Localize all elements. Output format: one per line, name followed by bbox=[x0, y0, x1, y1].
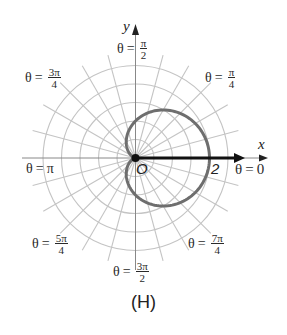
fraction: π 2 bbox=[140, 38, 148, 60]
x-axis-label: x bbox=[258, 136, 265, 153]
numerator: π bbox=[228, 67, 236, 78]
grid-radial-line bbox=[108, 55, 136, 158]
equals-sign: = bbox=[198, 236, 206, 252]
y-axis-label: y bbox=[123, 18, 130, 35]
grid-radial-line bbox=[136, 158, 239, 186]
numerator: 3π bbox=[136, 261, 149, 272]
label-theta-3pi-over-2: θ = 3π 2 bbox=[113, 261, 149, 283]
theta-symbol: θ bbox=[235, 161, 242, 178]
label-theta-5pi-over-4: θ = 5π 4 bbox=[32, 233, 68, 255]
angle-value: π bbox=[47, 161, 54, 177]
radius-2-label: 2 bbox=[211, 160, 219, 177]
denominator: 4 bbox=[58, 244, 64, 255]
angle-value: 0 bbox=[257, 161, 265, 178]
grid-radial-line bbox=[43, 105, 135, 158]
theta-symbol: θ bbox=[117, 41, 124, 57]
numerator: 3π bbox=[48, 67, 61, 78]
fraction: 5π 4 bbox=[55, 233, 68, 255]
equals-sign: = bbox=[245, 161, 253, 178]
origin-label: O bbox=[136, 160, 148, 177]
theta-symbol: θ bbox=[32, 236, 39, 252]
label-theta-pi-over-2: θ = π 2 bbox=[117, 38, 147, 60]
denominator: 4 bbox=[51, 78, 57, 89]
equals-sign: = bbox=[35, 70, 43, 86]
fraction: 3π 2 bbox=[136, 261, 149, 283]
grid-radial-line bbox=[136, 55, 164, 158]
label-theta-7pi-over-4: θ = 7π 4 bbox=[188, 233, 224, 255]
theta-symbol: θ bbox=[25, 70, 32, 86]
theta-symbol: θ bbox=[188, 236, 195, 252]
denominator: 2 bbox=[139, 272, 145, 283]
label-theta-pi: θ = π bbox=[26, 161, 54, 177]
grid-radial-line bbox=[43, 158, 135, 211]
denominator: 4 bbox=[214, 244, 220, 255]
equals-sign: = bbox=[36, 161, 44, 177]
y-axis-arrow-icon bbox=[132, 24, 139, 35]
numerator: π bbox=[140, 38, 148, 49]
fraction: 7π 4 bbox=[211, 233, 224, 255]
equals-sign: = bbox=[123, 264, 131, 280]
numerator: 7π bbox=[211, 233, 224, 244]
grid-radial-line bbox=[33, 130, 136, 158]
denominator: 2 bbox=[141, 49, 147, 60]
theta-symbol: θ bbox=[113, 264, 120, 280]
polar-graph-figure: y x O 2 θ = π 2 θ = 3π 4 θ = π 4 θ = π bbox=[0, 0, 287, 335]
equals-sign: = bbox=[215, 70, 223, 86]
label-theta-3pi-over-4: θ = 3π 4 bbox=[25, 67, 61, 89]
grid-radial-line bbox=[136, 130, 239, 158]
label-theta-zero: θ = 0 bbox=[235, 161, 264, 178]
denominator: 4 bbox=[229, 78, 235, 89]
equals-sign: = bbox=[42, 236, 50, 252]
figure-caption: (H) bbox=[0, 292, 287, 313]
numerator: 5π bbox=[55, 233, 68, 244]
fraction: π 4 bbox=[228, 67, 236, 89]
fraction: 3π 4 bbox=[48, 67, 61, 89]
equals-sign: = bbox=[127, 41, 135, 57]
grid-radial-line bbox=[136, 66, 189, 158]
grid-radial-line bbox=[108, 158, 136, 261]
theta-symbol: θ bbox=[205, 70, 212, 86]
theta-symbol: θ bbox=[26, 161, 33, 177]
label-theta-pi-over-4: θ = π 4 bbox=[205, 67, 235, 89]
